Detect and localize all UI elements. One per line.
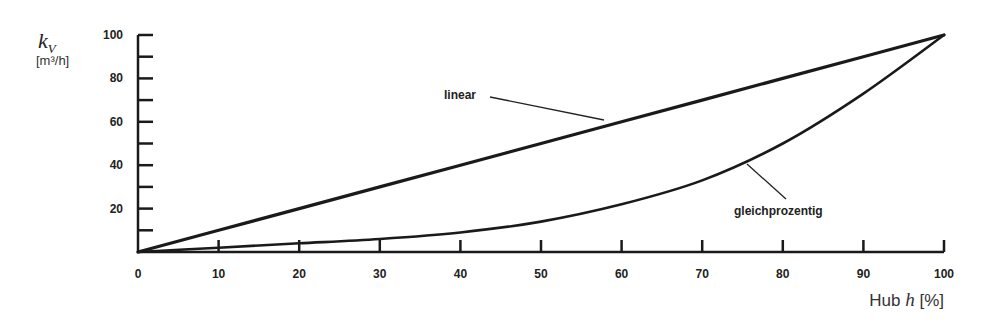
- y-tick-label: 20: [110, 202, 124, 216]
- x-tick-label: 50: [534, 267, 548, 281]
- x-axis-title: Hub h [%]: [869, 289, 944, 310]
- annotation-linear: linear: [444, 88, 476, 102]
- y-tick-label: 80: [110, 71, 124, 85]
- x-tick-label: 80: [776, 267, 790, 281]
- x-tick-label: 0: [135, 267, 142, 281]
- x-tick-label: 10: [212, 267, 226, 281]
- y-tick-label: 100: [103, 28, 123, 42]
- x-tick-label: 70: [696, 267, 710, 281]
- annotation-linear-leader: [490, 97, 604, 120]
- x-tick-label: 60: [615, 267, 629, 281]
- x-tick-label: 100: [934, 267, 954, 281]
- y-tick-labels: 20406080100: [103, 28, 123, 216]
- series-linear: [138, 35, 944, 252]
- x-tick-label: 20: [293, 267, 307, 281]
- x-tick-label: 40: [454, 267, 468, 281]
- annotation-gleichprozentig: gleichprozentig: [734, 204, 823, 218]
- valve-characteristic-chart: kV [m³/h] 20406080100 010203040506070809…: [0, 0, 989, 326]
- y-axis-symbol: kV: [38, 28, 58, 56]
- x-tick-label: 90: [857, 267, 871, 281]
- y-tick-label: 40: [110, 158, 124, 172]
- y-tick-label: 60: [110, 115, 124, 129]
- x-tick-label: 30: [373, 267, 387, 281]
- annotation-gleichprozentig-leader: [747, 164, 786, 199]
- x-tick-labels: 0102030405060708090100: [135, 267, 955, 281]
- y-axis-unit: [m³/h]: [36, 53, 69, 68]
